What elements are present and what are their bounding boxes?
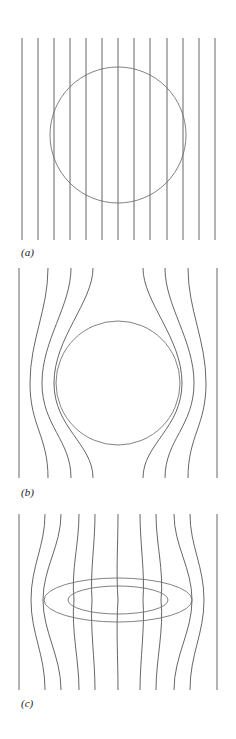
panel-label-b: (b) [21, 486, 34, 498]
field-line [30, 268, 48, 478]
field-line [43, 514, 61, 690]
field-line [117, 514, 118, 690]
panel-c [0, 500, 236, 739]
panel-label-a: (a) [21, 246, 34, 258]
panel-a-svg [0, 0, 236, 265]
panel-c-field-lines [19, 514, 217, 690]
panel-c-svg [0, 500, 236, 739]
panel-b [0, 240, 236, 505]
field-line [143, 268, 182, 478]
panel-b-field-lines [19, 268, 217, 478]
field-line [140, 514, 143, 690]
field-line [156, 514, 162, 690]
panel-b-body-circle [56, 321, 180, 445]
field-line [73, 514, 79, 690]
field-line [174, 514, 192, 690]
field-line [92, 514, 95, 690]
field-line [188, 268, 206, 478]
panel-label-c: (c) [21, 697, 33, 709]
figure-container: (a) (b) (c) [0, 0, 236, 739]
panel-b-svg [0, 240, 236, 505]
panel-a [0, 0, 236, 265]
field-line [54, 268, 93, 478]
